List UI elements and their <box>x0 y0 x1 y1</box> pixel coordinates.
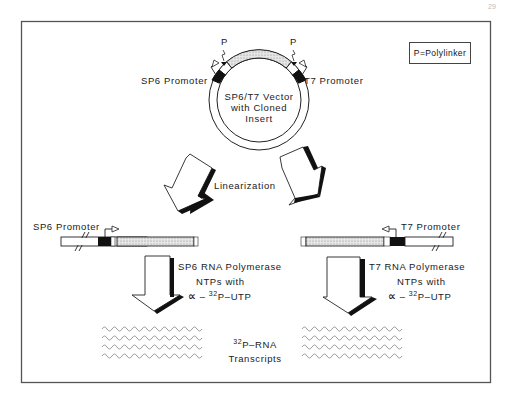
vector-label-line-2: with Cloned <box>214 102 304 113</box>
sp6-ntps-label: NTPs with <box>196 277 245 287</box>
linear-sp6-promoter-label: SP6 Promoter <box>33 222 100 232</box>
t7-label-nucleotide: ∝ – 32P–UTP <box>388 291 451 302</box>
transcripts-right <box>302 327 402 358</box>
linearization-label: Linearization <box>214 181 276 191</box>
isotope-superscript: 32 <box>409 290 418 297</box>
t7-ntps-label: NTPs with <box>397 277 446 287</box>
polylinker-marker-left: P <box>221 37 228 47</box>
legend-box: P=Polylinker <box>409 42 471 64</box>
product-label: 32P–RNA Transcripts <box>210 338 300 366</box>
vector-t7-promoter-label: T7 Promoter <box>304 76 363 86</box>
transcription-arrow-left <box>132 256 184 314</box>
sp6-polymerase-label: SP6 RNA Polymerase <box>178 262 282 272</box>
figure-frame <box>22 22 491 383</box>
linearization-arrow-right <box>280 146 326 205</box>
vector-label-line-3: Insert <box>214 113 304 124</box>
page-number: 29 <box>488 3 496 10</box>
vector-sp6-promoter-label: SP6 Promoter <box>141 76 208 86</box>
legend-text: P=Polylinker <box>414 48 466 58</box>
cloned-insert-arc <box>227 50 292 68</box>
transcripts-left <box>102 327 202 358</box>
vector-label: SP6/T7 Vector with Cloned Insert <box>214 91 304 124</box>
linear-t7-promoter-label: T7 Promoter <box>401 222 460 232</box>
linearization-arrow-left <box>164 154 216 214</box>
polylinker-marker-right: P <box>290 37 297 47</box>
t7-polymerase-label: T7 RNA Polymerase <box>369 262 465 272</box>
isotope-superscript: 32 <box>209 290 218 297</box>
sp6-label-nucleotide: ∝ – 32P–UTP <box>188 291 251 302</box>
vector-label-line-1: SP6/T7 Vector <box>214 91 304 102</box>
